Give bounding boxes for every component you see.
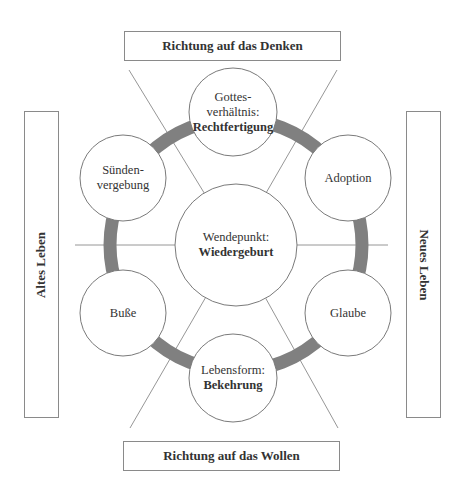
node-bottom-line1: Lebensform: bbox=[201, 363, 265, 378]
box-right-label: Neues Leben bbox=[416, 229, 432, 300]
node-top-line2: verhältnis: bbox=[207, 105, 260, 120]
node-upper-left-line1: Sünden- bbox=[102, 163, 144, 178]
node-lower-left-line1: Buße bbox=[110, 306, 136, 321]
box-left: Altes Leben bbox=[24, 111, 59, 418]
node-center-line1: Wendepunkt: bbox=[203, 230, 269, 245]
node-upper-right-line1: Adoption bbox=[324, 171, 371, 186]
node-lower-left: Buße bbox=[80, 270, 166, 356]
node-center: Wendepunkt: Wiedergeburt bbox=[175, 184, 297, 306]
node-upper-left: Sünden- vergebung bbox=[80, 135, 166, 221]
node-bottom-bold: Bekehrung bbox=[203, 378, 262, 393]
box-right: Neues Leben bbox=[406, 111, 441, 418]
box-left-label: Altes Leben bbox=[34, 231, 50, 297]
box-bottom: Richtung auf das Wollen bbox=[123, 441, 340, 471]
node-upper-right: Adoption bbox=[305, 135, 391, 221]
box-bottom-label: Richtung auf das Wollen bbox=[163, 448, 300, 464]
box-top-label: Richtung auf das Denken bbox=[162, 38, 303, 54]
node-bottom: Lebensform: Bekehrung bbox=[189, 334, 277, 422]
node-top-bold: Rechtfertigung bbox=[193, 120, 274, 135]
node-top: Gottes- verhältnis: Rechtfertigung bbox=[189, 68, 277, 156]
box-top: Richtung auf das Denken bbox=[124, 31, 341, 61]
node-upper-left-line2: vergebung bbox=[97, 178, 150, 193]
node-lower-right: Glaube bbox=[305, 270, 391, 356]
node-top-line1: Gottes- bbox=[215, 90, 252, 105]
node-lower-right-line1: Glaube bbox=[330, 306, 366, 321]
node-center-bold: Wiedergeburt bbox=[199, 245, 274, 260]
